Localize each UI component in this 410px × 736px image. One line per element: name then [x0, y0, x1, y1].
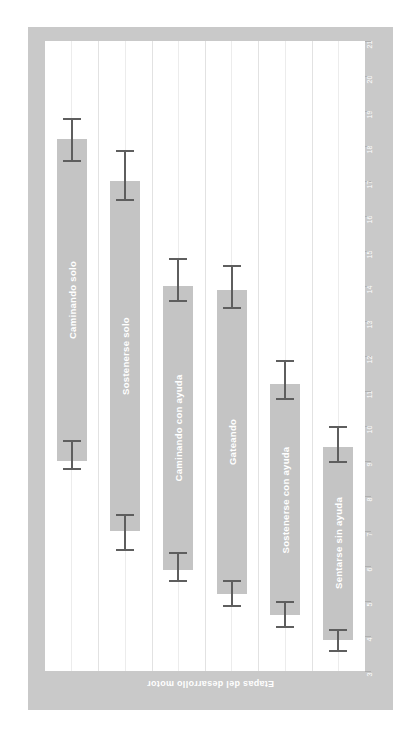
error-bar-upper-cap — [276, 360, 294, 362]
axis-tick-label: 4 — [366, 638, 373, 642]
axis-tick-label: 11 — [366, 391, 373, 398]
error-bar-upper — [337, 426, 339, 461]
range-bar[interactable]: Sostenerse solo — [110, 181, 140, 531]
error-bar-upper-cap — [329, 426, 347, 428]
axis-tick-label: 6 — [366, 568, 373, 572]
axis-tick-label: 21 — [366, 41, 373, 49]
error-bar-lower-cap — [63, 440, 81, 442]
error-bar-lower-cap — [276, 626, 294, 628]
bar-label: Sostenerse solo — [120, 317, 131, 395]
error-bar-upper — [71, 118, 73, 160]
axis-tick-label: 7 — [366, 533, 373, 537]
error-bar-lower-cap — [276, 601, 294, 603]
error-bar-lower-cap — [329, 629, 347, 631]
axis-tick-label: 19 — [366, 111, 373, 119]
category-gridline — [258, 41, 259, 671]
error-bar-upper-cap — [276, 398, 294, 400]
error-bar-lower — [124, 514, 126, 549]
axis-tick-label: 12 — [366, 356, 373, 364]
error-bar-lower-cap — [116, 514, 134, 516]
error-bar-lower-cap — [169, 552, 187, 554]
value-axis-title: Edad en meses — [45, 264, 55, 327]
axis-tick-label: 10 — [366, 426, 373, 434]
category-gridline — [205, 41, 206, 671]
plot-canvas: Caminando soloSostenerse soloCaminando c… — [45, 41, 365, 671]
error-bar-lower — [177, 552, 179, 580]
error-bar-upper-cap — [116, 199, 134, 201]
axis-tick-label: 16 — [366, 216, 373, 224]
error-bar-upper — [231, 265, 233, 307]
error-bar-upper — [177, 258, 179, 300]
error-bar-lower-cap — [223, 580, 241, 582]
range-bar[interactable]: Gateando — [217, 290, 247, 595]
axis-tick-label: 5 — [366, 603, 373, 607]
category-gridline — [98, 41, 99, 671]
axis-tick-label: 14 — [366, 286, 373, 294]
error-bar-upper — [124, 150, 126, 199]
error-bar-lower-cap — [63, 468, 81, 470]
category-gridline — [152, 41, 153, 671]
value-axis: 2120191817161514131211109876543 — [365, 41, 393, 671]
error-bar-upper-cap — [223, 265, 241, 267]
bar-label: Sentarse sin ayuda — [333, 497, 344, 589]
error-bar-upper-cap — [169, 258, 187, 260]
bar-label: Sostenerse con ayuda — [280, 446, 291, 553]
error-bar-upper — [284, 360, 286, 399]
axis-tick-label: 13 — [366, 321, 373, 329]
axis-tick-label: 18 — [366, 146, 373, 154]
error-bar-upper-cap — [169, 300, 187, 302]
axis-tick-label: 15 — [366, 251, 373, 259]
error-bar-upper-cap — [223, 307, 241, 309]
axis-tick-label: 9 — [366, 463, 373, 467]
range-bar[interactable]: Caminando solo — [57, 139, 87, 461]
range-bar[interactable]: Caminando con ayuda — [163, 286, 193, 570]
axis-tick-label: 17 — [366, 181, 373, 189]
category-gridline — [312, 41, 313, 671]
error-bar-lower — [71, 440, 73, 468]
category-axis-title: Etapas del desarrollo motor — [28, 679, 393, 689]
axis-tick-label: 3 — [366, 673, 373, 677]
error-bar-lower — [284, 601, 286, 626]
range-bar[interactable]: Sostenerse con ayuda — [270, 384, 300, 615]
error-bar-lower-cap — [223, 605, 241, 607]
error-bar-lower — [337, 629, 339, 650]
error-bar-lower-cap — [169, 580, 187, 582]
bar-label: Caminando con ayuda — [173, 374, 184, 481]
error-bar-upper-cap — [329, 461, 347, 463]
error-bar-upper-cap — [63, 160, 81, 162]
range-bar[interactable]: Sentarse sin ayuda — [323, 447, 353, 640]
axis-tick-label: 20 — [366, 76, 373, 84]
chart-title-wrapper: Periodos de los logros — [0, 0, 26, 736]
axis-tick-label: 8 — [366, 498, 373, 502]
error-bar-upper-cap — [116, 150, 134, 152]
bar-label: Caminando solo — [66, 261, 77, 339]
error-bar-lower-cap — [116, 549, 134, 551]
error-bar-lower — [231, 580, 233, 605]
error-bar-lower-cap — [329, 650, 347, 652]
plot-frame: Caminando soloSostenerse soloCaminando c… — [28, 27, 393, 710]
error-bar-upper-cap — [63, 118, 81, 120]
bar-label: Gateando — [226, 419, 237, 465]
